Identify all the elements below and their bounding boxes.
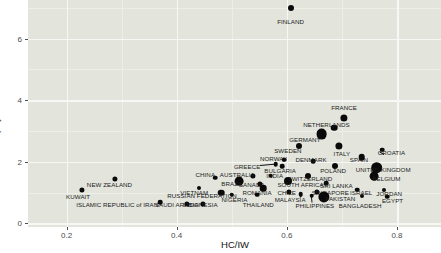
x-tick-label: 0.4	[171, 231, 182, 240]
point-label: ISLAMIC REPUBLIC of IRAN	[76, 201, 158, 208]
gridline-y-minor	[28, 8, 441, 9]
point-label: GREECE	[234, 163, 260, 170]
x-tick-mark	[287, 227, 288, 230]
gridline-y-major	[28, 223, 441, 225]
gridline-y-minor	[28, 131, 441, 132]
x-tick-mark	[67, 227, 68, 230]
y-tick-mark	[25, 100, 28, 101]
point-label: CHILE	[278, 188, 296, 195]
point-label: CHINA	[196, 171, 216, 178]
point-label: DENMARK	[295, 155, 326, 162]
point-label: FINLAND	[277, 17, 304, 24]
y-tick-mark	[25, 162, 28, 163]
point-label: BELGIUM	[372, 174, 400, 181]
gridline-y-minor	[28, 69, 441, 70]
point-label: INDIA	[266, 172, 283, 179]
point-label: POLAND	[320, 167, 346, 174]
data-point[interactable]	[309, 194, 314, 199]
y-tick-label: 6	[18, 34, 22, 43]
point-label: EGYPT	[382, 196, 403, 203]
scatter-chart: FINLANDFRANCENETHERLANDSGERMANYSWEDENITA…	[0, 0, 441, 253]
point-label: FRANCE	[331, 103, 357, 110]
gridline-y-major	[28, 39, 441, 41]
y-axis-title: sum.costs.employees/sum.PL.after.tax	[0, 42, 1, 184]
data-point[interactable]	[360, 194, 364, 198]
point-label: BANGLADESH	[339, 202, 382, 209]
point-label: NORWAY	[260, 154, 287, 161]
x-tick-label: 0.8	[391, 231, 402, 240]
x-tick-label: 0.6	[281, 231, 292, 240]
gridline-y-major	[28, 100, 441, 102]
plot-panel: FINLANDFRANCENETHERLANDSGERMANYSWEDENITA…	[28, 0, 441, 227]
point-label: KUWAIT	[66, 192, 90, 199]
y-tick-mark	[25, 39, 28, 40]
point-label: THAILAND	[243, 201, 274, 208]
point-label: ITALY	[334, 150, 351, 157]
point-label: UNITED KINGDOM	[356, 165, 411, 172]
point-label: NETHERLANDS	[303, 121, 350, 128]
point-label: SOUTH AFRICA	[277, 180, 323, 187]
point-label: SPAIN	[350, 155, 368, 162]
x-tick-mark	[177, 227, 178, 230]
point-label: VIETNAM	[180, 188, 208, 195]
point-label: GERMANY	[289, 136, 321, 143]
point-label: CROATIA	[378, 149, 405, 156]
x-tick-label: 0.2	[61, 231, 72, 240]
x-tick-mark	[397, 227, 398, 230]
point-label: PHILIPPINES	[296, 202, 335, 209]
point-label: SWEDEN	[274, 147, 301, 154]
data-point[interactable]	[255, 192, 260, 197]
data-point[interactable]	[288, 5, 294, 11]
y-tick-label: 0	[18, 219, 22, 228]
point-label: PAKISTAN	[325, 194, 355, 201]
data-point[interactable]	[158, 200, 163, 205]
y-tick-mark	[25, 223, 28, 224]
point-label: NEW ZEALAND	[87, 181, 132, 188]
data-point[interactable]	[274, 162, 279, 167]
y-tick-label: 4	[18, 96, 22, 105]
y-tick-label: 2	[18, 157, 22, 166]
x-axis-title: HC/IW	[221, 239, 249, 250]
